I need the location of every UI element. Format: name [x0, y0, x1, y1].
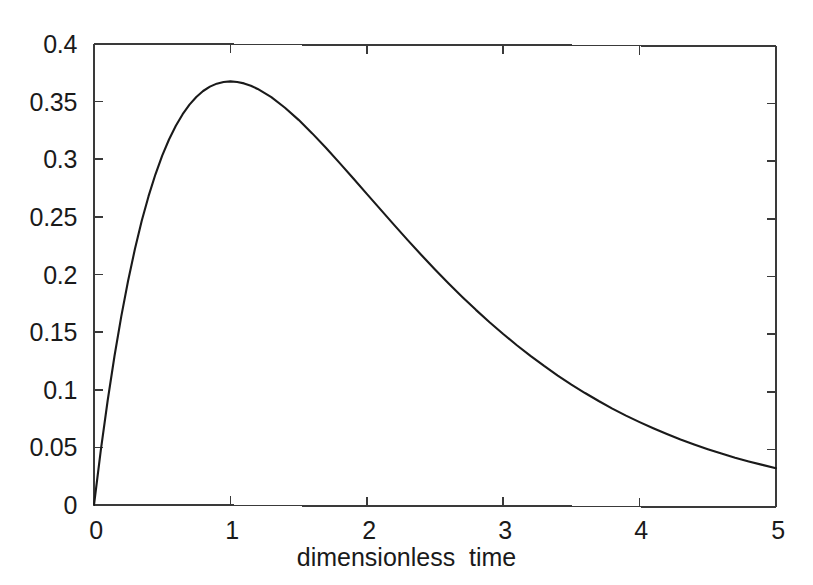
xtick-label-0: 0: [89, 516, 103, 545]
xtick-label-2: 2: [362, 516, 376, 545]
ytick-label-005: 0.05: [30, 433, 77, 462]
ytick-label-02: 0.2: [43, 261, 77, 290]
xtick-label-3: 3: [498, 516, 512, 545]
ytick-label-0: 0: [63, 491, 77, 520]
plot-area: [0, 0, 813, 585]
ytick-label-015: 0.15: [30, 318, 77, 347]
ytick-label-04: 0.4: [43, 30, 77, 59]
ytick-label-01: 0.1: [43, 376, 77, 405]
x-axis-title: dimensionless time: [0, 543, 813, 572]
xtick-label-4: 4: [634, 516, 648, 545]
data-series-line: [94, 81, 776, 505]
ytick-label-035: 0.35: [30, 88, 77, 117]
ytick-label-03: 0.3: [43, 145, 77, 174]
ytick-label-025: 0.25: [30, 203, 77, 232]
xtick-label-1: 1: [225, 516, 239, 545]
xtick-label-5: 5: [771, 516, 785, 545]
figure-canvas: 0 0.05 0.1 0.15 0.2 0.25 0.3 0.35 0.4 0 …: [0, 0, 813, 585]
